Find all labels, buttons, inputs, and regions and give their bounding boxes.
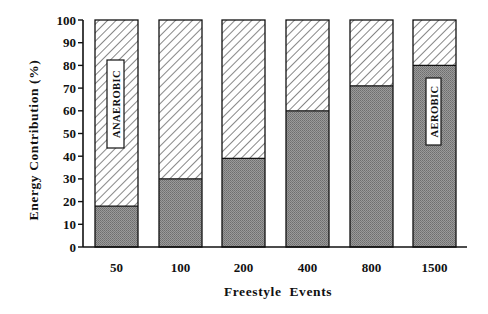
y-tick-label: 80 <box>63 58 76 73</box>
y-axis-title: Energy Contribution (%) <box>26 60 41 221</box>
x-category-label: 1500 <box>422 260 448 275</box>
y-tick-label: 90 <box>63 35 76 50</box>
x-axis: 501002004008001500 <box>83 247 467 275</box>
anaerobic-segment <box>159 20 202 179</box>
x-category-label: 50 <box>110 260 123 275</box>
bar-400 <box>286 20 329 247</box>
x-category-label: 100 <box>171 260 191 275</box>
x-category-label: 800 <box>362 260 382 275</box>
y-tick-label: 20 <box>63 194 76 209</box>
aerobic-label-box: AEROBIC <box>426 78 441 145</box>
bar-200 <box>222 20 265 247</box>
y-tick-label: 10 <box>63 217 76 232</box>
svg-text:AEROBIC: AEROBIC <box>429 86 440 138</box>
aerobic-segment <box>95 206 138 247</box>
y-tick-label: 0 <box>70 240 77 255</box>
x-category-label: 200 <box>234 260 254 275</box>
aerobic-segment <box>286 111 329 247</box>
anaerobic-segment <box>350 20 393 86</box>
energy-contribution-chart: 0102030405060708090100 ANAEROBICAEROBIC … <box>0 0 488 314</box>
aerobic-segment <box>159 179 202 247</box>
y-tick-label: 100 <box>57 13 77 28</box>
x-category-label: 400 <box>298 260 318 275</box>
svg-text:ANAEROBIC: ANAEROBIC <box>111 70 122 138</box>
aerobic-segment <box>222 158 265 247</box>
y-tick-label: 50 <box>63 126 76 141</box>
y-tick-label: 70 <box>63 81 76 96</box>
anaerobic-segment <box>413 20 456 65</box>
y-tick-label: 40 <box>63 149 76 164</box>
y-tick-label: 60 <box>63 103 76 118</box>
x-axis-title: Freestyle Events <box>224 284 332 299</box>
bar-100 <box>159 20 202 247</box>
anaerobic-segment <box>286 20 329 111</box>
anaerobic-segment <box>222 20 265 158</box>
y-tick-label: 30 <box>63 171 76 186</box>
bars: ANAEROBICAEROBIC <box>95 20 456 247</box>
anaerobic-label-box: ANAEROBIC <box>107 60 124 148</box>
y-axis: 0102030405060708090100 <box>57 13 84 255</box>
aerobic-segment <box>350 86 393 247</box>
bar-800 <box>350 20 393 247</box>
